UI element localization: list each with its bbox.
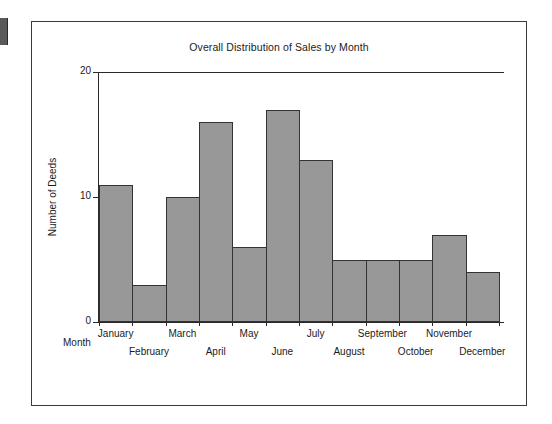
x-tick-mark — [166, 322, 167, 326]
y-tick-label: 0 — [85, 315, 91, 326]
y-tick-label: 20 — [80, 65, 91, 76]
x-label-july: July — [307, 328, 325, 339]
y-axis-title: Number of Deeds — [47, 158, 58, 236]
bar-june[interactable] — [266, 110, 300, 323]
x-label-june: June — [271, 346, 293, 357]
bar-february[interactable] — [132, 285, 166, 323]
bar-april[interactable] — [199, 122, 233, 322]
x-tick-mark — [199, 322, 200, 326]
x-label-march: March — [168, 328, 196, 339]
left-edge-marker — [0, 18, 8, 45]
chart-panel: Overall Distribution of Sales by Month N… — [31, 21, 527, 406]
bar-march[interactable] — [166, 197, 200, 322]
x-label-september: September — [358, 328, 407, 339]
x-axis-line — [98, 322, 504, 323]
x-tick-mark — [366, 322, 367, 326]
x-tick-mark — [399, 322, 400, 326]
x-tick-mark — [232, 322, 233, 326]
bar-may[interactable] — [232, 247, 266, 322]
bar-october[interactable] — [399, 260, 433, 323]
chart-title: Overall Distribution of Sales by Month — [32, 41, 526, 53]
x-tick-mark — [266, 322, 267, 326]
bar-september[interactable] — [366, 260, 400, 323]
bar-december[interactable] — [466, 272, 500, 322]
x-axis-title: Month — [63, 337, 91, 348]
y-tick-mark — [93, 197, 98, 198]
x-tick-mark — [466, 322, 467, 326]
x-tick-mark — [132, 322, 133, 326]
x-label-december: December — [459, 346, 505, 357]
x-label-april: April — [206, 346, 226, 357]
x-label-january: January — [98, 328, 134, 339]
x-label-august: August — [333, 346, 364, 357]
x-label-october: October — [398, 346, 434, 357]
x-label-may: May — [240, 328, 259, 339]
x-label-february: February — [129, 346, 169, 357]
bar-series — [99, 72, 499, 322]
bar-august[interactable] — [332, 260, 366, 323]
x-tick-mark — [499, 322, 500, 326]
y-tick-label: 10 — [80, 190, 91, 201]
x-tick-mark — [99, 322, 100, 326]
plot-area: Number of Deeds 01020 JanuaryFebruaryMar… — [98, 72, 504, 371]
y-tick-mark — [93, 322, 98, 323]
x-tick-mark — [332, 322, 333, 326]
x-label-november: November — [426, 328, 472, 339]
bar-november[interactable] — [432, 235, 466, 323]
x-tick-mark — [299, 322, 300, 326]
bar-july[interactable] — [299, 160, 333, 323]
x-tick-mark — [432, 322, 433, 326]
y-tick-mark — [93, 72, 98, 73]
bar-january[interactable] — [99, 185, 133, 323]
